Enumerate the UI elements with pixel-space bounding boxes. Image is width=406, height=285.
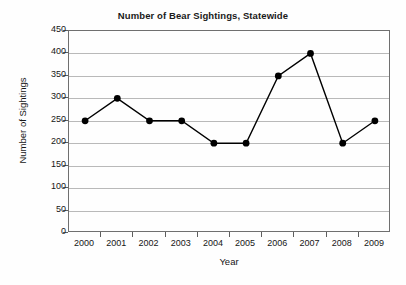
series-markers [82,50,379,147]
x-axis-title: Year [68,256,390,267]
x-axis-tick-label: 2009 [357,238,391,248]
data-point [275,72,282,79]
data-point [339,140,346,147]
y-axis-tick-label: 400 [26,46,66,56]
x-axis-tick-label: 2006 [260,238,294,248]
data-point [82,117,89,124]
y-axis-tick-label: 0 [26,226,66,236]
chart-title: Number of Bear Sightings, Statewide [0,10,406,21]
data-point [211,140,218,147]
data-point [307,50,314,57]
plot-area [68,30,390,232]
data-point [178,117,185,124]
series-line-bear-sightings [85,53,375,143]
data-point [146,117,153,124]
y-axis-tick-label: 450 [26,24,66,34]
y-axis-tick-label: 300 [26,91,66,101]
line-chart: Number of Bear Sightings, Statewide Numb… [0,0,406,285]
x-axis-tick-label: 2000 [67,238,101,248]
data-point [243,140,250,147]
x-axis-tick-label: 2002 [132,238,166,248]
y-axis-tick-label: 100 [26,181,66,191]
data-point [114,95,121,102]
x-axis-tick-label: 2008 [325,238,359,248]
x-axis-tick-label: 2001 [99,238,133,248]
y-axis-tick-label: 50 [26,204,66,214]
y-axis-tick-label: 350 [26,69,66,79]
x-axis-tick-label: 2003 [164,238,198,248]
x-axis-tick-label: 2004 [196,238,230,248]
x-axis-tick-label: 2005 [228,238,262,248]
data-point [372,117,379,124]
x-axis-tick-label: 2007 [293,238,327,248]
series-layer [69,31,391,233]
y-axis-tick-label: 150 [26,159,66,169]
y-axis-tick-label: 200 [26,136,66,146]
y-axis-tick-label: 250 [26,114,66,124]
